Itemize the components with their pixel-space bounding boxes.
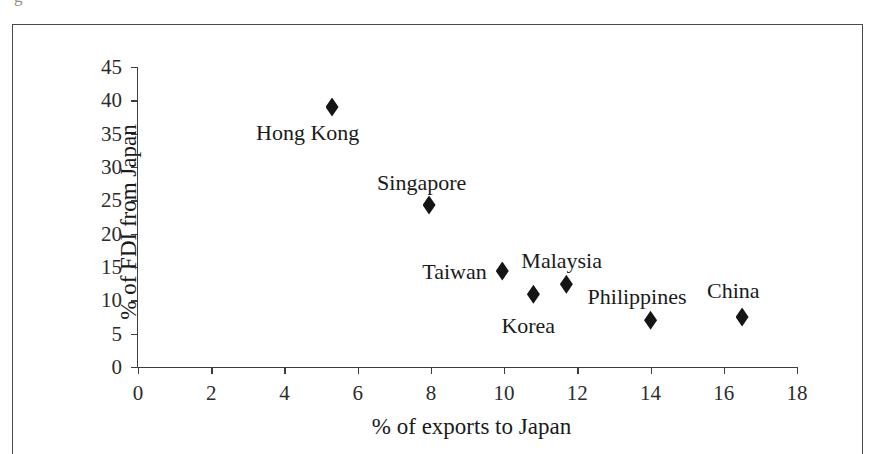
x-tick-mark bbox=[358, 367, 359, 374]
x-tick-mark bbox=[504, 367, 505, 374]
y-tick-label: 5 bbox=[112, 323, 123, 344]
y-tick-label: 30 bbox=[101, 157, 122, 178]
y-tick-label: 35 bbox=[101, 123, 122, 144]
clipped-text-above: g bbox=[0, 0, 879, 8]
y-tick-label: 20 bbox=[101, 223, 122, 244]
y-tick-mark bbox=[131, 100, 138, 101]
x-tick-label: 6 bbox=[352, 383, 363, 404]
y-tick-mark bbox=[131, 334, 138, 335]
x-tick-mark bbox=[724, 367, 725, 374]
y-tick-mark bbox=[131, 300, 138, 301]
x-tick-mark bbox=[431, 367, 432, 374]
data-point-marker bbox=[326, 98, 339, 117]
data-point-label: Taiwan bbox=[422, 261, 486, 283]
x-tick-label: 16 bbox=[713, 383, 734, 404]
y-axis-line bbox=[137, 67, 138, 368]
y-tick-label: 25 bbox=[101, 190, 122, 211]
x-tick-label: 12 bbox=[567, 383, 588, 404]
y-tick-mark bbox=[131, 267, 138, 268]
x-tick-label: 10 bbox=[494, 383, 515, 404]
x-tick-mark bbox=[284, 367, 285, 374]
data-point-label: Korea bbox=[501, 315, 555, 337]
x-axis-title: % of exports to Japan bbox=[0, 414, 879, 440]
data-point-marker bbox=[644, 311, 657, 330]
y-tick-mark bbox=[131, 167, 138, 168]
data-point-marker bbox=[496, 262, 509, 281]
x-tick-label: 8 bbox=[426, 383, 437, 404]
data-point-label: Malaysia bbox=[521, 250, 602, 272]
data-point-label: Philippines bbox=[588, 286, 687, 308]
y-tick-label: 40 bbox=[101, 90, 122, 111]
y-tick-mark bbox=[131, 234, 138, 235]
data-point-label: Singapore bbox=[377, 172, 466, 194]
data-point-marker bbox=[423, 196, 436, 215]
x-tick-label: 2 bbox=[206, 383, 217, 404]
y-tick-label: 45 bbox=[101, 57, 122, 78]
x-axis-line bbox=[137, 367, 797, 368]
data-point-label: Hong Kong bbox=[256, 122, 359, 144]
data-point-marker bbox=[560, 275, 573, 294]
y-tick-mark bbox=[131, 200, 138, 201]
x-tick-mark bbox=[577, 367, 578, 374]
x-tick-mark bbox=[797, 367, 798, 374]
data-point-label: China bbox=[707, 280, 760, 302]
x-tick-mark bbox=[651, 367, 652, 374]
data-point-marker bbox=[527, 285, 540, 304]
y-tick-label: 0 bbox=[112, 357, 123, 378]
x-tick-label: 0 bbox=[133, 383, 144, 404]
x-tick-mark bbox=[138, 367, 139, 374]
y-tick-label: 15 bbox=[101, 257, 122, 278]
x-tick-label: 14 bbox=[640, 383, 661, 404]
data-point-marker bbox=[736, 308, 749, 327]
y-tick-label: 10 bbox=[101, 290, 122, 311]
x-tick-mark bbox=[211, 367, 212, 374]
plot-area: 051015202530354045 024681012141618 Hong … bbox=[138, 67, 797, 367]
y-tick-mark bbox=[131, 367, 138, 368]
x-tick-label: 18 bbox=[787, 383, 808, 404]
y-tick-mark bbox=[131, 134, 138, 135]
y-tick-mark bbox=[131, 67, 138, 68]
x-tick-label: 4 bbox=[279, 383, 290, 404]
